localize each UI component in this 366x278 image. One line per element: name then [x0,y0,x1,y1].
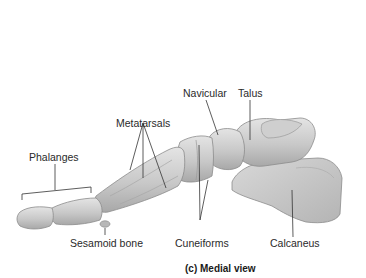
phalanges-bones [17,198,102,229]
label-talus: Talus [238,88,263,99]
calcaneus-bone [232,158,342,223]
label-navicular: Navicular [183,88,227,99]
figure-caption: (c) Medial view [185,263,256,274]
sesamoid-bone [100,221,110,227]
label-phalanges: Phalanges [29,152,79,163]
label-sesamoid-bone: Sesamoid bone [70,238,143,249]
metatarsal-bones [95,147,185,212]
label-metatarsals: Metatarsals [116,118,170,129]
phalanges-bracket [22,187,91,200]
label-calcaneus: Calcaneus [270,238,320,249]
label-cuneiforms: Cuneiforms [175,238,229,249]
